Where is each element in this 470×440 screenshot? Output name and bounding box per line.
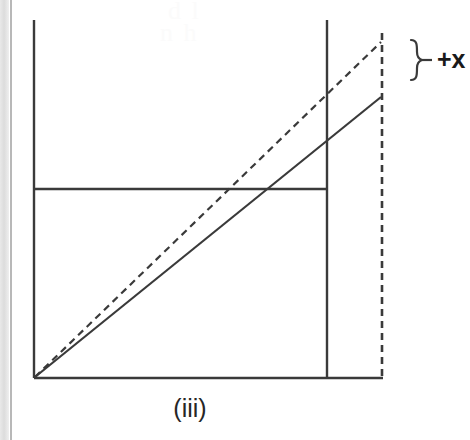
diagram-canvas bbox=[0, 0, 470, 440]
dashed-ramp-line bbox=[35, 42, 381, 377]
figure-caption: (iii) bbox=[0, 394, 380, 423]
brace-annotation-label: +x bbox=[437, 45, 466, 74]
right-curly-brace bbox=[411, 40, 422, 80]
figure-container: d l n h +x (iii) bbox=[0, 0, 470, 440]
solid-ramp-line bbox=[35, 97, 381, 377]
